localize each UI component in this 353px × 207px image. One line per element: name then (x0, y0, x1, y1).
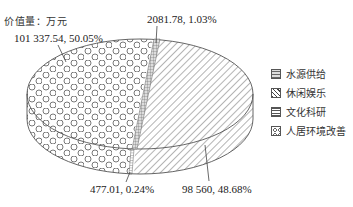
label-leisure: 98 560, 48.68% (182, 183, 252, 195)
grid-pattern-icon (271, 69, 281, 79)
circles-pattern-icon (271, 126, 281, 136)
label-habitat: 101 337.54, 50.05% (14, 32, 103, 44)
label-culture: 477.01, 0.24% (90, 183, 154, 195)
label-water: 2081.78, 1.03% (147, 13, 217, 25)
legend: 水源供给 休闲娱乐 文化科研 人居环境改善 (271, 66, 346, 142)
legend-item-water: 水源供给 (271, 66, 346, 81)
horizontal-pattern-icon (271, 107, 281, 117)
legend-item-culture: 文化科研 (271, 104, 346, 119)
legend-item-habitat: 人居环境改善 (271, 123, 346, 138)
legend-item-leisure: 休闲娱乐 (271, 85, 346, 100)
diagonal-pattern-icon (271, 88, 281, 98)
